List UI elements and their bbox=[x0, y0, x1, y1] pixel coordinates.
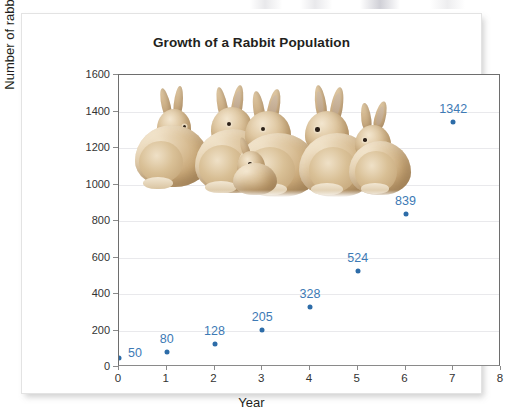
scan-artifact-strip bbox=[250, 0, 500, 9]
y-tick-label: 1400 bbox=[66, 105, 110, 117]
gridline bbox=[119, 221, 499, 222]
data-point-label: 839 bbox=[395, 194, 416, 208]
x-tick-mark bbox=[452, 366, 453, 370]
x-tick-mark bbox=[166, 366, 167, 370]
data-point-label: 205 bbox=[252, 310, 273, 324]
x-tick-mark bbox=[118, 366, 119, 370]
y-tick-label: 1600 bbox=[66, 68, 110, 80]
y-tick-label: 1200 bbox=[66, 141, 110, 153]
x-tick-mark bbox=[261, 366, 262, 370]
gridline bbox=[119, 331, 499, 332]
data-point bbox=[403, 211, 408, 216]
rabbit-photo-overlay bbox=[133, 85, 401, 200]
y-axis-label: Number of rabbits bbox=[2, 0, 17, 138]
data-point-label: 1342 bbox=[439, 102, 467, 116]
y-tick-label: 200 bbox=[66, 324, 110, 336]
x-tick-label: 5 bbox=[342, 372, 372, 384]
data-point bbox=[212, 341, 217, 346]
x-tick-label: 2 bbox=[199, 372, 229, 384]
y-tick-label: 400 bbox=[66, 287, 110, 299]
data-point bbox=[164, 350, 169, 355]
data-point bbox=[260, 327, 265, 332]
figure-card: Growth of a Rabbit Population Number of … bbox=[21, 13, 482, 394]
data-point-label: 80 bbox=[160, 332, 174, 346]
x-tick-label: 8 bbox=[485, 372, 515, 384]
x-tick-mark bbox=[405, 366, 406, 370]
data-point-label: 128 bbox=[204, 324, 225, 338]
x-tick-label: 4 bbox=[294, 372, 324, 384]
y-tick-label: 600 bbox=[66, 251, 110, 263]
x-tick-label: 3 bbox=[246, 372, 276, 384]
x-axis-label: Year bbox=[22, 395, 481, 410]
x-tick-mark bbox=[214, 366, 215, 370]
plot-area: 50801282053285248391342 bbox=[118, 74, 500, 366]
data-point-label: 50 bbox=[128, 346, 142, 360]
data-point bbox=[355, 269, 360, 274]
gridline bbox=[119, 148, 499, 149]
photo-bottom-fade bbox=[133, 190, 401, 200]
x-tick-label: 7 bbox=[437, 372, 467, 384]
x-tick-mark bbox=[500, 366, 501, 370]
gridline bbox=[119, 185, 499, 186]
x-tick-label: 0 bbox=[103, 372, 133, 384]
y-tick-label: 1000 bbox=[66, 178, 110, 190]
y-tick-label: 800 bbox=[66, 214, 110, 226]
data-point bbox=[451, 120, 456, 125]
x-tick-label: 6 bbox=[390, 372, 420, 384]
x-tick-mark bbox=[357, 366, 358, 370]
y-tick-label: 0 bbox=[66, 360, 110, 372]
data-point bbox=[118, 355, 122, 360]
data-point-label: 328 bbox=[300, 287, 321, 301]
x-tick-mark bbox=[309, 366, 310, 370]
x-tick-label: 1 bbox=[151, 372, 181, 384]
data-point-label: 524 bbox=[347, 251, 368, 265]
data-point bbox=[308, 305, 313, 310]
chart-title: Growth of a Rabbit Population bbox=[22, 35, 481, 50]
gridline bbox=[119, 258, 499, 259]
